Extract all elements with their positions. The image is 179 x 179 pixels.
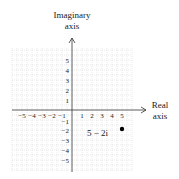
svg-text:−2: −2 <box>48 112 56 120</box>
svg-text:−2: −2 <box>62 127 70 135</box>
svg-text:5: 5 <box>66 57 70 65</box>
svg-text:−5: −5 <box>18 112 26 120</box>
imaginary-axis-label-1: Imaginary <box>54 10 91 20</box>
svg-text:−4: −4 <box>28 112 36 120</box>
svg-text:1: 1 <box>80 112 84 120</box>
svg-text:3: 3 <box>100 112 104 120</box>
y-tick-labels: 5 4 3 2 1 −1 −2 −3 −4 −5 <box>62 57 70 165</box>
svg-text:−4: −4 <box>62 147 70 155</box>
complex-plane-diagram: Imaginary axis Real axis −5 −4 −3 −2 −1 … <box>0 0 179 179</box>
svg-text:2: 2 <box>66 87 70 95</box>
real-axis-label-2: axis <box>153 111 168 121</box>
svg-text:−5: −5 <box>62 157 70 165</box>
svg-text:3: 3 <box>66 77 70 85</box>
real-axis-label-1: Real <box>152 100 169 110</box>
point-5-minus-2i <box>120 127 124 131</box>
svg-text:1: 1 <box>66 97 70 105</box>
svg-text:−1: −1 <box>62 118 70 126</box>
imaginary-axis-label-2: axis <box>65 21 80 31</box>
svg-text:−3: −3 <box>38 112 46 120</box>
svg-text:−3: −3 <box>62 137 70 145</box>
svg-text:4: 4 <box>66 67 70 75</box>
svg-text:2: 2 <box>90 112 94 120</box>
svg-text:5: 5 <box>120 112 124 120</box>
x-tick-labels: −5 −4 −3 −2 −1 1 2 3 4 5 <box>18 112 124 120</box>
svg-text:4: 4 <box>110 112 114 120</box>
point-label: 5 − 2i <box>87 128 109 138</box>
